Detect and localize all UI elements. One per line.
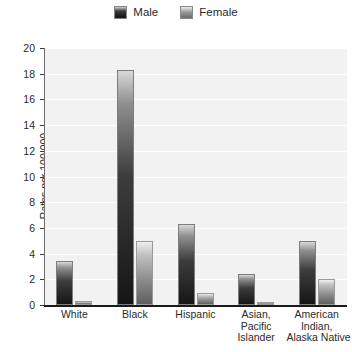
x-axis-label-line: Asian, <box>226 309 287 321</box>
y-tick-label: 18 <box>5 69 35 80</box>
bar-chart: Male Female Rates per 100,000 0246810121… <box>0 0 352 352</box>
legend-label-male: Male <box>133 6 158 19</box>
y-tick-label: 16 <box>5 94 35 105</box>
chart-legend: Male Female <box>0 6 352 19</box>
y-tick-label: 20 <box>5 43 35 54</box>
legend-label-female: Female <box>199 6 237 19</box>
legend-entry-female: Female <box>180 6 237 19</box>
x-axis-label-line: Black <box>105 309 166 321</box>
x-axis-label: White <box>44 309 105 321</box>
y-tick-label: 2 <box>5 274 35 285</box>
y-tick-label: 10 <box>5 172 35 183</box>
bar-female <box>257 302 274 305</box>
x-axis-label: Asian,PacificIslander <box>226 309 287 344</box>
y-tick-label: 4 <box>5 249 35 260</box>
y-tick-label: 0 <box>5 300 35 311</box>
x-axis-label: Hispanic <box>165 309 226 321</box>
x-axis-label-line: Hispanic <box>165 309 226 321</box>
x-axis-line <box>44 305 347 307</box>
y-tick-label: 14 <box>5 120 35 131</box>
bar-male <box>117 70 134 305</box>
y-tick-label: 6 <box>5 223 35 234</box>
bar-female <box>318 279 335 305</box>
y-tick-label: 8 <box>5 197 35 208</box>
x-axis-label-line: Islander <box>226 332 287 344</box>
x-axis-label-line: White <box>44 309 105 321</box>
bar-male <box>299 241 316 305</box>
x-axis-label-line: Alaska Native <box>286 332 347 344</box>
x-axis-label-line: American <box>286 309 347 321</box>
bar-female <box>197 293 214 305</box>
x-axis-labels: WhiteBlackHispanicAsian,PacificIslanderA… <box>44 309 347 352</box>
bar-series-layer <box>44 48 347 305</box>
bar-female <box>75 301 92 305</box>
y-tick-label: 12 <box>5 146 35 157</box>
x-axis-label: Black <box>105 309 166 321</box>
bar-male <box>178 224 195 305</box>
legend-swatch-female-icon <box>180 6 193 19</box>
legend-swatch-male-icon <box>114 6 127 19</box>
bar-female <box>136 241 153 305</box>
legend-entry-male: Male <box>114 6 158 19</box>
bar-male <box>56 261 73 305</box>
bar-male <box>238 274 255 305</box>
x-axis-label: AmericanIndian,Alaska Native <box>286 309 347 344</box>
